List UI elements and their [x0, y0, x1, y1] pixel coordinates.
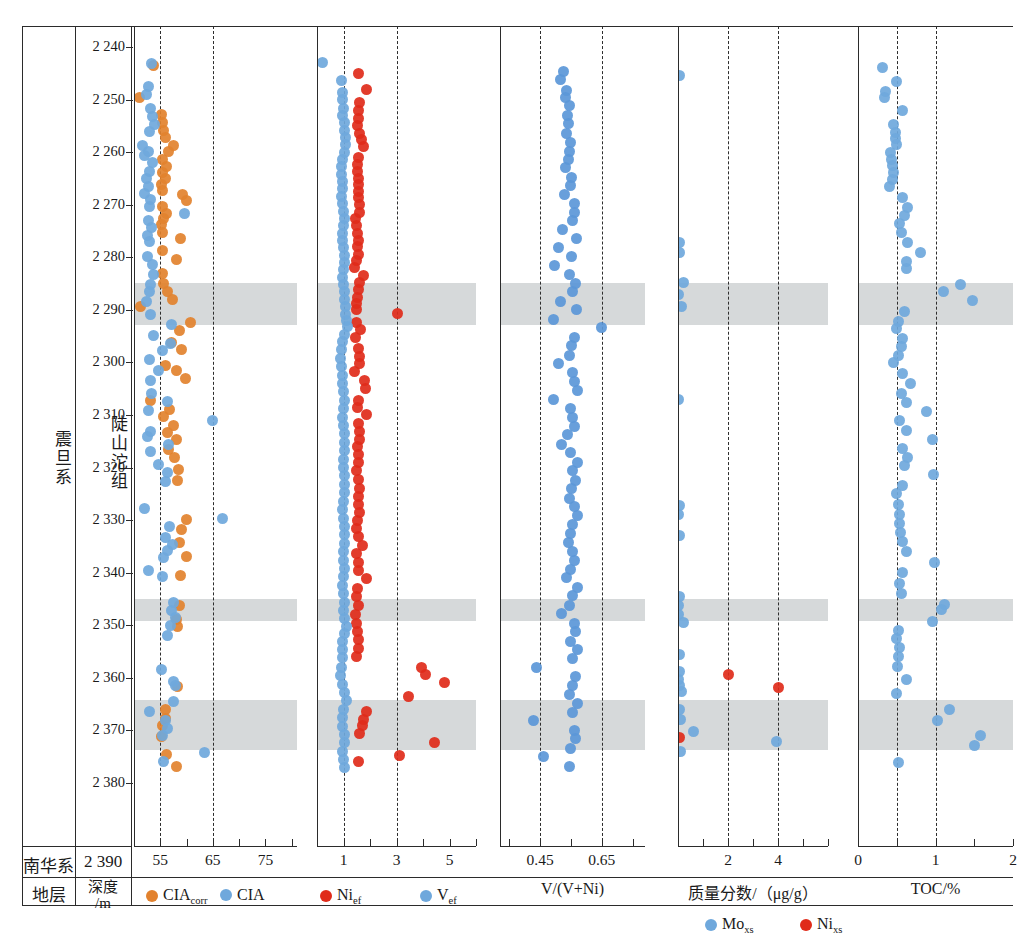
xtick-panel-toc-1 — [897, 839, 898, 846]
xtick-label-panel-cia-1: 55 — [153, 851, 169, 869]
depth-tick-label-2370: 2 370 — [76, 721, 125, 738]
legend-label-main-0: CIA — [163, 886, 191, 903]
legend-item-v-ef: Vef — [420, 886, 457, 906]
xtick-panel-efs-3 — [397, 839, 398, 846]
datapoint-CIA_corr-47 — [176, 524, 187, 535]
xtick-panel-efs-1 — [344, 839, 345, 846]
datapoint-CIA_corr-45 — [172, 475, 183, 486]
legend-label-0: CIAcorr — [163, 886, 208, 906]
datapoint-VVNi-19 — [571, 233, 582, 244]
datapoint-TOC-48 — [893, 499, 904, 510]
datapoint-VVNi-17 — [567, 215, 578, 226]
datapoint-TOC-26 — [967, 295, 978, 306]
depth-tick-label-2360: 2 360 — [76, 669, 125, 686]
panel-panel-efs — [317, 26, 476, 846]
datapoint-Ni_xs-1 — [773, 682, 784, 693]
xtick-panel-efs-6 — [476, 839, 477, 846]
datapoint-CIA-34 — [153, 365, 164, 376]
datapoint-VVNi-67 — [531, 662, 542, 673]
datapoint-TOC-56 — [894, 578, 905, 589]
datapoint-CIA_corr-15 — [181, 195, 192, 206]
datapoint-TOC-3 — [879, 92, 890, 103]
xaxis-panel-v-ratio — [500, 846, 645, 847]
datapoint-CIA-53 — [158, 552, 169, 563]
datapoint-Ni_ef-1 — [361, 84, 372, 95]
depth-tick-label-2340: 2 340 — [76, 564, 125, 581]
xtick-panel-v-ratio-1 — [540, 839, 541, 846]
datapoint-TOC-53 — [901, 546, 912, 557]
datapoint-CIA-49 — [164, 521, 175, 532]
datapoint-CIA-27 — [141, 296, 152, 307]
xtick-label-panel-efs-5: 5 — [446, 851, 454, 869]
datapoint-VVNi-76 — [565, 743, 576, 754]
datapoint-CIA-59 — [165, 620, 176, 631]
xaxis-title-panel-v-ratio: V/(V+Ni) — [541, 880, 604, 898]
datapoint-Mo_xs-14 — [678, 649, 685, 660]
panel-panel-v-ratio — [500, 26, 645, 846]
datapoint-TOC-35 — [905, 378, 916, 389]
datapoint-Ni_ef-0 — [353, 68, 364, 79]
datapoint-TOC-65 — [892, 661, 903, 672]
xtick-panel-toc-4 — [1013, 839, 1014, 846]
xtick-panel-efs-2 — [370, 839, 371, 846]
datapoint-CIA_corr-38 — [158, 411, 169, 422]
datapoint-CIA_corr-23 — [171, 254, 182, 265]
datapoint-CIA_corr-29 — [185, 317, 196, 328]
depth-tick-mark-2360 — [126, 678, 133, 679]
datapoint-Ni_ef-8 — [358, 141, 369, 152]
xtick-panel-cia-3 — [213, 839, 214, 846]
depth-tick-mark-2320 — [126, 468, 133, 469]
datapoint-VVNi-27 — [571, 304, 582, 315]
datapoint-TOC-47 — [891, 488, 902, 499]
depth-tick-label-2260: 2 260 — [76, 143, 125, 160]
shaded-band-2 — [678, 700, 828, 750]
datapoint-TOC-0 — [877, 62, 888, 73]
datapoint-Ni_ef-64 — [361, 573, 372, 584]
xtick-panel-efs-5 — [450, 839, 451, 846]
datapoint-TOC-52 — [897, 536, 908, 547]
depth-tick-label-2250: 2 250 — [76, 91, 125, 108]
datapoint-Mo_xs-23 — [678, 746, 686, 757]
legend-label-sub-2: ef — [353, 895, 361, 906]
datapoint-V_ef-1 — [336, 75, 347, 86]
xtick-panel-cia-6 — [292, 839, 293, 846]
datapoint-TOC-33 — [888, 357, 899, 368]
datapoint-TOC-21 — [915, 247, 926, 258]
legend-swatch-2 — [320, 890, 332, 902]
datapoint-VVNi-28 — [548, 314, 559, 325]
strat-formation-doushantuo: 陡山沱组 — [82, 415, 126, 491]
xtick-label-panel-mass-fraction-2: 2 — [724, 851, 732, 869]
panel-panel-toc — [858, 26, 1013, 846]
xtick-panel-efs-4 — [423, 839, 424, 846]
datapoint-TOC-72 — [893, 757, 904, 768]
panel-frame-left-panel-mass-fraction — [678, 26, 679, 846]
datapoint-VVNi-22 — [549, 260, 560, 271]
xtick-panel-mass-fraction-5 — [803, 839, 804, 846]
datapoint-TOC-68 — [944, 704, 955, 715]
datapoint-TOC-14 — [884, 181, 895, 192]
datapoint-CIA_corr-21 — [175, 233, 186, 244]
xtick-panel-v-ratio-3 — [602, 839, 603, 846]
legend-label-sub-3: ef — [449, 895, 457, 906]
datapoint-VVNi-66 — [567, 653, 578, 664]
xtick-panel-cia-5 — [265, 839, 266, 846]
depth-tick-mark-2250 — [126, 100, 133, 101]
datapoint-TOC-41 — [927, 434, 938, 445]
datapoint-VVNi-37 — [548, 394, 559, 405]
legend-label-3: Vef — [437, 886, 457, 906]
datapoint-CIA-41 — [142, 431, 153, 442]
datapoint-CIA_corr-44 — [173, 464, 184, 475]
depth-tick-mark-2380 — [126, 783, 133, 784]
legend-item-ni-ef: Nief — [320, 886, 361, 906]
datapoint-CIA_corr-24 — [157, 268, 168, 279]
legend-swatch-4 — [705, 919, 717, 931]
datapoint-CIA-28 — [145, 309, 156, 320]
strat-header-depth-line1: 深度 — [75, 879, 131, 895]
xtick-panel-mass-fraction-3 — [753, 839, 754, 846]
datapoint-TOC-39 — [894, 415, 905, 426]
datapoint-CIA-43 — [145, 446, 156, 457]
xtick-panel-v-ratio-4 — [633, 839, 634, 846]
datapoint-TOC-69 — [932, 715, 943, 726]
depth-tick-mark-2340 — [126, 573, 133, 574]
datapoint-CIA-17 — [179, 208, 190, 219]
